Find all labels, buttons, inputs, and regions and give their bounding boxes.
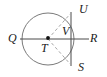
point-label-v: V (62, 25, 69, 37)
point-label-q: Q (8, 32, 17, 44)
geometry-figure: Q T V U R S (0, 0, 107, 77)
center-point-dot (46, 36, 50, 40)
point-label-r: R (90, 32, 97, 44)
point-label-s: S (78, 61, 84, 73)
point-label-t: T (41, 42, 48, 54)
segment-ts-dashed (48, 39, 71, 65)
point-label-u: U (79, 3, 88, 15)
